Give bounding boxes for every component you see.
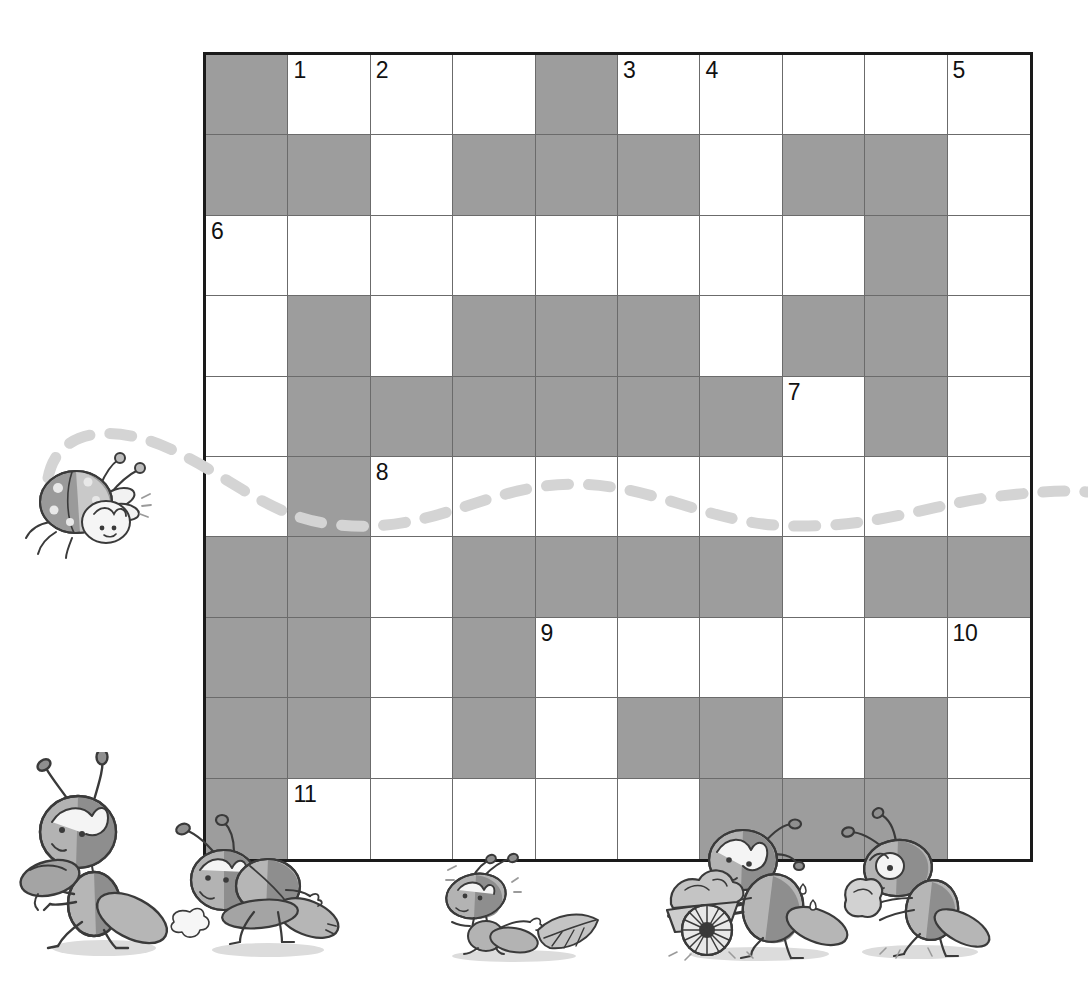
crossword-cell[interactable] [948,296,1030,376]
crossword-cell[interactable]: 5 [948,55,1030,135]
crossword-cell[interactable] [700,135,782,215]
crossword-cell-blocked [371,377,453,457]
crossword-cell[interactable] [536,216,618,296]
crossword-cell-blocked [206,55,288,135]
crossword-cell[interactable]: 2 [371,55,453,135]
crossword-cell[interactable] [371,698,453,778]
crossword-grid[interactable]: 1234567891011 [203,52,1033,862]
crossword-cell[interactable] [783,537,865,617]
crossword-cell[interactable] [700,618,782,698]
crossword-cell-blocked [288,457,370,537]
crossword-cell-blocked [206,135,288,215]
crossword-cell-blocked [783,779,865,859]
crossword-cell-blocked [618,135,700,215]
crossword-cell[interactable] [206,377,288,457]
crossword-cell[interactable] [700,216,782,296]
crossword-cell[interactable] [453,457,535,537]
crossword-cell[interactable] [371,296,453,376]
crossword-cell[interactable] [371,537,453,617]
crossword-cell[interactable]: 7 [783,377,865,457]
crossword-cell[interactable]: 3 [618,55,700,135]
ant-walking-icon [16,752,191,960]
flying-ladybug-icon [14,438,164,563]
crossword-cell-blocked [288,698,370,778]
crossword-cell-blocked [453,296,535,376]
crossword-cell[interactable] [206,296,288,376]
crossword-cell[interactable] [288,216,370,296]
cell-number-7: 7 [788,379,800,405]
crossword-cell[interactable] [700,296,782,376]
crossword-cell[interactable] [948,698,1030,778]
crossword-cell[interactable] [865,457,947,537]
crossword-cell[interactable] [371,135,453,215]
crossword-cell[interactable] [206,457,288,537]
crossword-cell[interactable] [536,779,618,859]
crossword-cell-blocked [536,135,618,215]
crossword-cell[interactable] [865,618,947,698]
crossword-cell[interactable] [783,457,865,537]
crossword-cell[interactable] [371,618,453,698]
crossword-cell[interactable]: 9 [536,618,618,698]
cell-number-5: 5 [953,57,965,83]
crossword-cell[interactable] [618,457,700,537]
cell-number-11: 11 [293,781,316,807]
crossword-cell[interactable] [948,779,1030,859]
crossword-cell[interactable] [948,457,1030,537]
crossword-cell-blocked [536,55,618,135]
crossword-cell-blocked [865,216,947,296]
crossword-cell-blocked [536,377,618,457]
crossword-cell-blocked [453,537,535,617]
crossword-cell-blocked [618,296,700,376]
crossword-cell-blocked [453,135,535,215]
crossword-cell-blocked [865,135,947,215]
crossword-cell[interactable]: 6 [206,216,288,296]
crossword-cell-blocked [700,698,782,778]
cell-number-10: 10 [953,620,978,646]
crossword-cell-blocked [453,377,535,457]
crossword-cell[interactable]: 1 [288,55,370,135]
crossword-cell[interactable] [618,779,700,859]
cell-number-6: 6 [211,218,223,244]
crossword-cell-blocked [618,698,700,778]
ant-dragging-leaf-icon [418,852,613,964]
crossword-cell[interactable] [948,135,1030,215]
cell-number-8: 8 [376,459,388,485]
crossword-cell[interactable] [453,55,535,135]
crossword-cell[interactable] [371,216,453,296]
crossword-cell-blocked [206,537,288,617]
crossword-cell-blocked [865,377,947,457]
crossword-cell-blocked [948,537,1030,617]
crossword-cell[interactable] [453,779,535,859]
cell-number-4: 4 [705,57,717,83]
crossword-cell-blocked [536,296,618,376]
crossword-cell[interactable] [783,216,865,296]
crossword-cell[interactable] [536,698,618,778]
crossword-cell[interactable]: 11 [288,779,370,859]
crossword-cell[interactable] [453,216,535,296]
cell-number-3: 3 [623,57,635,83]
crossword-cell[interactable] [618,618,700,698]
crossword-cell-blocked [700,537,782,617]
crossword-cell[interactable] [783,698,865,778]
crossword-cell[interactable] [700,457,782,537]
crossword-cell[interactable]: 8 [371,457,453,537]
crossword-cell[interactable] [948,377,1030,457]
crossword-cell-blocked [206,779,288,859]
crossword-cell[interactable] [618,216,700,296]
crossword-cell[interactable] [536,457,618,537]
crossword-cell[interactable] [783,55,865,135]
crossword-cell[interactable] [783,618,865,698]
crossword-cell-blocked [783,135,865,215]
crossword-cell[interactable] [948,216,1030,296]
crossword-cell-blocked [865,779,947,859]
crossword-cell-blocked [288,296,370,376]
crossword-cell[interactable] [865,55,947,135]
crossword-cell-blocked [783,296,865,376]
crossword-cell-blocked [288,377,370,457]
crossword-cell[interactable]: 4 [700,55,782,135]
crossword-cell-blocked [700,377,782,457]
crossword-cell-blocked [206,618,288,698]
crossword-cell[interactable] [371,779,453,859]
crossword-cell[interactable]: 10 [948,618,1030,698]
crossword-cell-blocked [288,537,370,617]
